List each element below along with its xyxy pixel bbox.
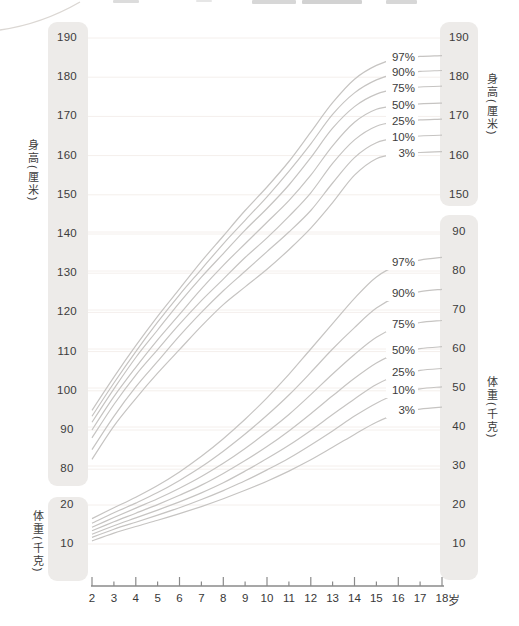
height-percentile-label: 10%	[386, 130, 418, 145]
height-tick-left: 150	[52, 187, 82, 202]
cut-off-title-fragment	[113, 0, 417, 4]
height-percentile-label: 90%	[386, 65, 418, 80]
height-tick-left: 100	[52, 383, 82, 398]
x-tick-label: 16	[387, 591, 409, 606]
x-tick-label: 13	[322, 591, 344, 606]
height-tick-left: 120	[52, 304, 82, 319]
height-tick-left: 160	[52, 148, 82, 163]
height-percentile-label: 50%	[386, 98, 418, 113]
height-tick-left: 170	[52, 108, 82, 123]
x-tick-label: 8	[212, 591, 234, 606]
x-tick-label: 7	[190, 591, 212, 606]
height-percentile-label: 25%	[386, 114, 418, 129]
x-tick-label: 2	[81, 591, 103, 606]
height-tick-right: 170	[444, 108, 474, 123]
x-tick-label: 4	[125, 591, 147, 606]
weight-tick-right: 40	[444, 419, 474, 434]
axis-title-height-right: 身高(厘米)	[485, 73, 499, 136]
weight-tick-left: 20	[52, 497, 82, 512]
weight-tick-right: 20	[444, 497, 474, 512]
height-tick-right: 190	[444, 30, 474, 45]
x-tick-label: 17	[409, 591, 431, 606]
x-tick-label: 14	[344, 591, 366, 606]
height-tick-left: 190	[52, 30, 82, 45]
weight-tick-right: 30	[444, 458, 474, 473]
height-tick-left: 80	[52, 461, 82, 476]
growth-percentile-chart: 身高(厘米) 体重(千克) 身高(厘米) 体重(千克) 岁 2345678910…	[0, 0, 519, 626]
x-tick-label: 18	[431, 591, 453, 606]
x-tick-label: 12	[300, 591, 322, 606]
weight-curve-3%	[92, 407, 442, 541]
x-tick-label: 9	[234, 591, 256, 606]
height-tick-left: 110	[52, 344, 82, 359]
height-percentile-label: 3%	[386, 146, 418, 161]
height-tick-left: 140	[52, 226, 82, 241]
weight-percentile-label: 3%	[386, 403, 418, 418]
weight-tick-right: 60	[444, 341, 474, 356]
weight-percentile-label: 25%	[386, 365, 418, 380]
weight-tick-right: 10	[444, 536, 474, 551]
x-tick-label: 5	[147, 591, 169, 606]
height-tick-right: 160	[444, 148, 474, 163]
weight-tick-right: 70	[444, 302, 474, 317]
x-tick-label: 6	[169, 591, 191, 606]
weight-tick-right: 90	[444, 224, 474, 239]
weight-tick-right: 50	[444, 380, 474, 395]
height-axis-band-left	[48, 22, 88, 486]
height-percentile-label: 97%	[386, 50, 418, 65]
x-tick-label: 10	[256, 591, 278, 606]
x-tick-label: 11	[278, 591, 300, 606]
weight-tick-right: 80	[444, 263, 474, 278]
weight-percentile-label: 97%	[386, 255, 418, 270]
axis-title-weight-right: 体重(千克)	[485, 376, 499, 439]
weight-percentile-label: 90%	[386, 286, 418, 301]
axis-title-height-left: 身高(厘米)	[26, 139, 40, 202]
weight-percentile-label: 10%	[386, 383, 418, 398]
height-tick-right: 150	[444, 187, 474, 202]
weight-percentile-label: 75%	[386, 317, 418, 332]
x-tick-label: 3	[103, 591, 125, 606]
height-percentile-label: 75%	[386, 81, 418, 96]
height-tick-left: 130	[52, 265, 82, 280]
height-tick-left: 180	[52, 69, 82, 84]
x-tick-label: 15	[365, 591, 387, 606]
weight-tick-left: 10	[52, 536, 82, 551]
height-tick-left: 90	[52, 422, 82, 437]
axis-title-weight-left: 体重(千克)	[31, 510, 45, 573]
height-tick-right: 180	[444, 69, 474, 84]
weight-percentile-label: 50%	[386, 343, 418, 358]
